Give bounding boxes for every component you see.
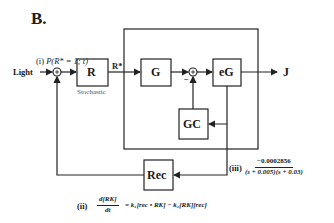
block-g-label: G: [151, 66, 160, 78]
block-diagram-lines: [0, 0, 334, 223]
sum2-minus-label: −: [184, 75, 189, 84]
block-rec-label: Rec: [147, 169, 166, 181]
equation-iii-tag: (iii): [229, 164, 242, 173]
equation-iii-fraction: −0.0002856 (s + 0.005)(s + 0.03): [245, 158, 303, 176]
input-light-label: Light: [13, 68, 33, 77]
output-j-label: J: [283, 66, 289, 78]
signal-r-star: R*: [112, 62, 122, 71]
block-r-caption: Stochastic: [77, 89, 106, 96]
equation-i: (i) P(R* = 1; t): [36, 57, 88, 66]
block-eg-label: eG: [219, 66, 234, 78]
equation-i-text: P(R* = 1; t): [46, 56, 88, 66]
equation-i-tag: (i): [36, 56, 44, 66]
equation-ii-lhs-num: d[RK]: [97, 196, 119, 206]
equation-ii-lhs: d[RK] dt: [97, 196, 119, 214]
equation-ii-rhs: = k₁[rec • RK] − k₂[RK][rec]: [125, 202, 207, 209]
equation-iii-denominator: (s + 0.005)(s + 0.03): [245, 168, 303, 177]
equation-ii-lhs-den: dt: [105, 206, 110, 215]
panel-label: B.: [31, 10, 47, 27]
block-gc-label: GC: [183, 118, 201, 130]
equation-ii-tag: (ii): [77, 202, 87, 211]
block-r-label: R: [87, 66, 96, 78]
equation-iii-numerator: −0.0002856: [255, 158, 293, 168]
